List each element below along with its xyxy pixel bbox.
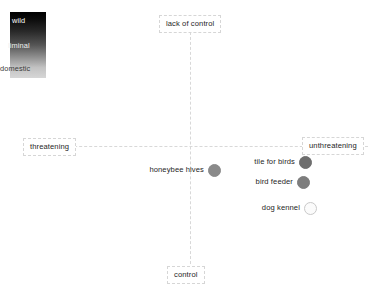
data-point <box>299 156 312 169</box>
axis-label-threatening: threatening <box>23 138 76 156</box>
axis-label-lack-of-control: lack of control <box>159 15 221 33</box>
legend-entry-liminal: liminal <box>8 42 30 49</box>
legend-entry-domestic: domestic <box>0 65 30 72</box>
data-point-label: tile for birds <box>0 158 295 166</box>
quadrant-scatter-chart: lack of control control threatening unth… <box>0 0 374 294</box>
data-point-label: bird feeder <box>0 178 293 186</box>
data-point-label: honeybee hives <box>0 166 204 174</box>
axis-label-unthreatening: unthreatening <box>302 137 364 155</box>
y-axis-line <box>190 22 191 274</box>
data-point-label: dog kennel <box>0 204 300 212</box>
data-point <box>297 176 310 189</box>
data-point <box>304 202 317 215</box>
legend-entry-wild: wild <box>12 17 25 24</box>
axis-label-control: control <box>167 266 205 284</box>
